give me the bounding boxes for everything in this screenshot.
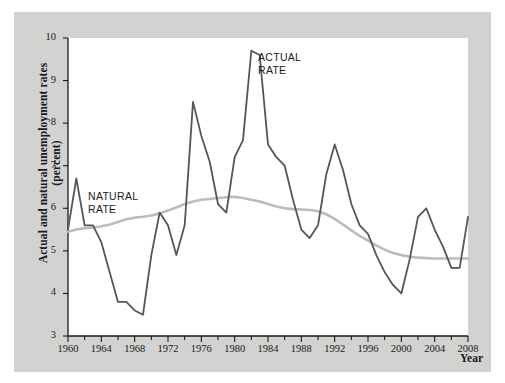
x-axis-tick-label: 1992 (318, 343, 352, 354)
y-axis-tick-label: 6 (40, 201, 56, 212)
natural-rate-annotation-line-2: RATE (88, 203, 138, 216)
y-axis-tick-label: 7 (40, 159, 56, 170)
x-axis-tick-label: 1980 (218, 343, 252, 354)
x-axis-ticks (68, 336, 468, 342)
x-axis-tick-label: 1996 (351, 343, 385, 354)
series-paths (68, 51, 468, 315)
y-axis-tick-label: 4 (40, 286, 56, 297)
chart-svg (0, 0, 505, 383)
x-axis-tick-label: 1960 (51, 343, 85, 354)
x-axis-tick-label: 1964 (84, 343, 118, 354)
figure-root: Actual and natural unemployment rates (p… (0, 0, 505, 383)
y-axis-tick-label: 9 (40, 74, 56, 85)
y-axis-tick-label: 10 (40, 31, 56, 42)
x-axis-tick-label: 1976 (184, 343, 218, 354)
y-axis-tick-label: 8 (40, 116, 56, 127)
x-axis-tick-label: 1968 (118, 343, 152, 354)
natural-rate-annotation: NATURAL RATE (88, 190, 138, 215)
actual-rate-annotation-line-1: ACTUAL (258, 51, 301, 64)
y-axis-tick-label: 3 (40, 329, 56, 340)
axis-lines (68, 38, 468, 336)
actual-rate-line (68, 51, 468, 315)
actual-rate-annotation: ACTUAL RATE (258, 51, 301, 76)
actual-rate-annotation-line-2: RATE (258, 64, 301, 77)
x-axis-tick-label: 2000 (384, 343, 418, 354)
x-axis-tick-label: 1984 (251, 343, 285, 354)
natural-rate-annotation-line-1: NATURAL (88, 190, 138, 203)
y-axis-ticks (63, 38, 68, 336)
y-axis-tick-label: 5 (40, 244, 56, 255)
x-axis-tick-label: 1972 (151, 343, 185, 354)
x-axis-tick-label: 1988 (284, 343, 318, 354)
x-axis-tick-label: 2008 (451, 343, 485, 354)
x-axis-tick-label: 2004 (418, 343, 452, 354)
